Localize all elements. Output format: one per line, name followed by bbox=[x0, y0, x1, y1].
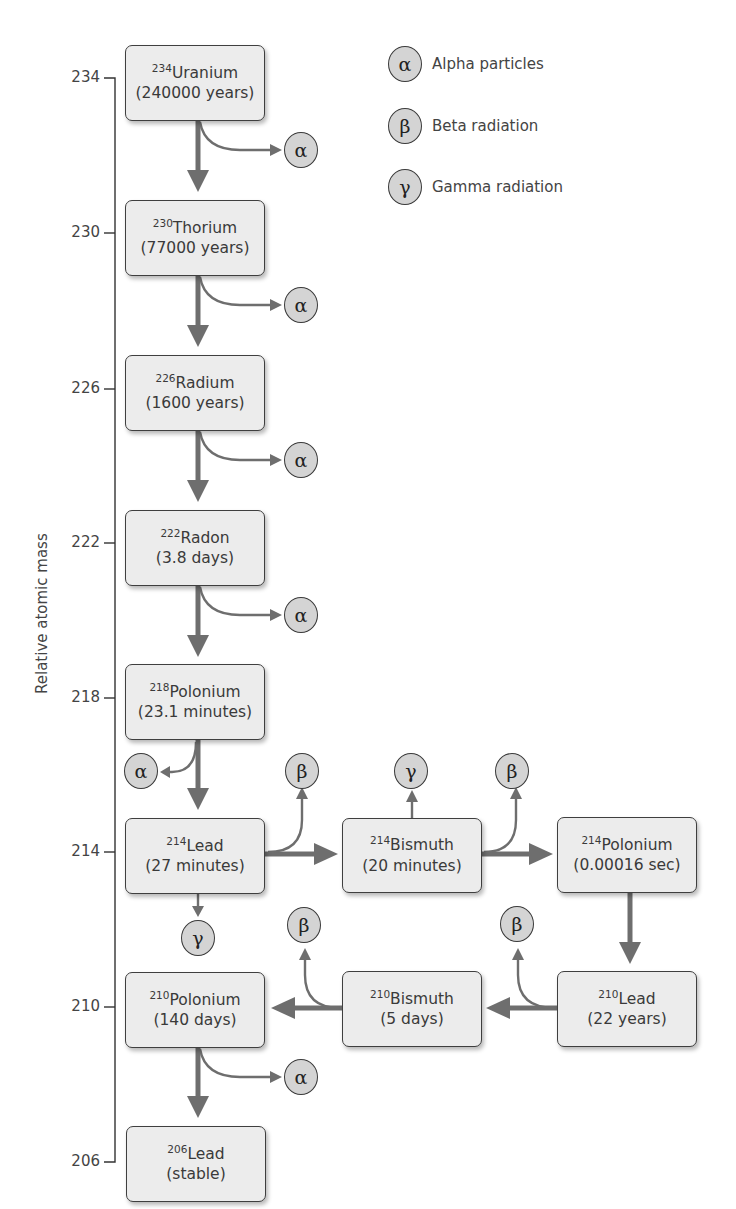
beta-particle-icon: β bbox=[285, 753, 319, 789]
alpha-particle-icon: α bbox=[284, 442, 318, 478]
element-name: Lead bbox=[186, 837, 223, 855]
beta-particle-icon: β bbox=[500, 906, 534, 942]
y-tick-210: 210 bbox=[60, 997, 100, 1015]
y-tick-214: 214 bbox=[60, 842, 100, 860]
decay-arrow-th230-ra226 bbox=[187, 275, 209, 347]
element-name: Polonium bbox=[169, 991, 240, 1009]
y-tick-234: 234 bbox=[60, 68, 100, 86]
decay-arrow-u234-th230 bbox=[187, 120, 209, 192]
nuclide-box-po210: 210Polonium (140 days) bbox=[125, 972, 265, 1048]
decay-arrow-ra226-rn222 bbox=[187, 430, 209, 502]
beta-particle-icon: β bbox=[495, 753, 529, 789]
mass-number: 210 bbox=[370, 988, 390, 1000]
mass-number: 210 bbox=[598, 988, 618, 1000]
mass-number: 218 bbox=[149, 681, 169, 693]
element-name: Lead bbox=[187, 1145, 224, 1163]
y-tick-222: 222 bbox=[60, 533, 100, 551]
emission-branch-u234 bbox=[200, 122, 272, 150]
mass-number: 214 bbox=[581, 834, 601, 846]
beta-particle-icon: β bbox=[287, 907, 321, 943]
legend-beta-label: Beta radiation bbox=[432, 117, 538, 135]
half-life: (77000 years) bbox=[141, 238, 250, 258]
emission-branch-bi214-beta bbox=[484, 797, 516, 852]
alpha-particle-icon: α bbox=[284, 597, 318, 633]
legend-beta-icon: β bbox=[388, 108, 422, 144]
mass-number: 222 bbox=[160, 527, 180, 539]
element-name: Radium bbox=[176, 374, 235, 392]
mass-number: 206 bbox=[167, 1143, 187, 1155]
nuclide-box-u234: 234Uranium (240000 years) bbox=[125, 45, 265, 121]
decay-arrow-rn222-po218 bbox=[187, 585, 209, 657]
half-life: (1600 years) bbox=[145, 393, 244, 413]
emission-branch-bi210-beta bbox=[305, 958, 340, 1008]
element-name: Radon bbox=[180, 529, 229, 547]
emission-branch-rn222 bbox=[200, 587, 272, 615]
element-name: Thorium bbox=[173, 219, 237, 237]
mass-number: 210 bbox=[149, 989, 169, 1001]
mass-number: 214 bbox=[166, 835, 186, 847]
legend-gamma-icon: γ bbox=[388, 169, 422, 205]
nuclide-box-bi214: 214Bismuth (20 minutes) bbox=[342, 818, 482, 893]
legend-gamma-label: Gamma radiation bbox=[432, 178, 563, 196]
uranium-decay-chain-diagram: Relative atomic mass 234 230 226 222 218… bbox=[0, 0, 736, 1209]
alpha-particle-icon: α bbox=[124, 753, 158, 789]
element-name: Polonium bbox=[169, 683, 240, 701]
nuclide-box-th230: 230Thorium (77000 years) bbox=[125, 200, 265, 276]
element-name: Uranium bbox=[172, 64, 238, 82]
nuclide-box-pb206: 206Lead (stable) bbox=[126, 1126, 266, 1202]
y-tick-206: 206 bbox=[60, 1152, 100, 1170]
legend-alpha-label: Alpha particles bbox=[432, 55, 544, 73]
gamma-ray-icon: γ bbox=[181, 920, 215, 956]
decay-arrow-po214-pb210 bbox=[619, 893, 641, 964]
nuclide-box-ra226: 226Radium (1600 years) bbox=[125, 355, 265, 431]
y-axis-title: Relative atomic mass bbox=[33, 544, 51, 694]
nuclide-box-pb210: 210Lead (22 years) bbox=[557, 971, 697, 1047]
element-name: Polonium bbox=[601, 836, 672, 854]
half-life: (stable) bbox=[166, 1164, 225, 1184]
decay-arrow-po210-pb206 bbox=[187, 1047, 209, 1118]
decay-arrow-pb214-bi214 bbox=[265, 843, 338, 865]
y-tick-218: 218 bbox=[60, 688, 100, 706]
half-life: (22 years) bbox=[587, 1009, 666, 1029]
mass-number: 230 bbox=[153, 217, 173, 229]
emission-branch-th230 bbox=[200, 277, 272, 305]
nuclide-box-bi210: 210Bismuth (5 days) bbox=[342, 971, 482, 1047]
half-life: (23.1 minutes) bbox=[138, 702, 252, 722]
legend-alpha-icon: α bbox=[388, 46, 422, 82]
nuclide-box-rn222: 222Radon (3.8 days) bbox=[125, 510, 265, 586]
gamma-ray-icon: γ bbox=[394, 753, 428, 789]
half-life: (27 minutes) bbox=[145, 856, 245, 876]
alpha-particle-icon: α bbox=[284, 287, 318, 323]
half-life: (140 days) bbox=[153, 1010, 236, 1030]
decay-arrow-bi214-po214 bbox=[482, 843, 553, 865]
half-life: (5 days) bbox=[380, 1009, 443, 1029]
mass-number: 234 bbox=[152, 62, 172, 74]
half-life: (3.8 days) bbox=[156, 548, 234, 568]
mass-number: 226 bbox=[155, 372, 175, 384]
decay-arrow-po218-pb214 bbox=[187, 740, 209, 810]
half-life: (20 minutes) bbox=[362, 856, 462, 876]
nuclide-box-po218: 218Polonium (23.1 minutes) bbox=[125, 664, 265, 740]
y-tick-226: 226 bbox=[60, 379, 100, 397]
element-name: Bismuth bbox=[390, 990, 454, 1008]
mass-number: 214 bbox=[370, 834, 390, 846]
mass-axis bbox=[104, 78, 115, 1162]
emission-branch-pb214-beta bbox=[268, 797, 302, 852]
element-name: Lead bbox=[618, 990, 655, 1008]
emission-branch-po218 bbox=[168, 742, 196, 772]
emission-branch-pb210-beta bbox=[518, 958, 555, 1008]
emission-branch-ra226 bbox=[200, 432, 272, 460]
half-life: (0.00016 sec) bbox=[573, 855, 680, 875]
y-tick-230: 230 bbox=[60, 223, 100, 241]
alpha-particle-icon: α bbox=[284, 1059, 318, 1095]
element-name: Bismuth bbox=[390, 836, 454, 854]
emission-branch-po210 bbox=[200, 1049, 272, 1077]
nuclide-box-po214: 214Polonium (0.00016 sec) bbox=[557, 817, 697, 893]
half-life: (240000 years) bbox=[136, 83, 255, 103]
alpha-particle-icon: α bbox=[284, 132, 318, 168]
nuclide-box-pb214: 214Lead (27 minutes) bbox=[125, 818, 265, 894]
